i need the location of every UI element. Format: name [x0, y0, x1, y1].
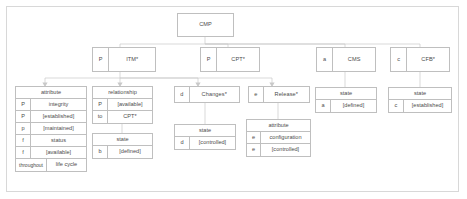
table-cell-key: f [16, 147, 31, 158]
node-cpt[interactable]: P CPT* [200, 47, 260, 72]
table-header-cell: state [389, 88, 451, 99]
node-release-label: Release* [264, 87, 309, 102]
table-cell-key: e [247, 132, 261, 143]
table-cell-key: P [16, 111, 31, 122]
table-itm-state: state b [defined] [92, 133, 153, 159]
table-row: attribute [16, 87, 86, 99]
table-cell-key: d [175, 137, 190, 149]
node-cfb-label: CFB* [407, 48, 449, 71]
table-row: e [controlled] [247, 144, 310, 156]
table-cell-key: throughout [16, 159, 47, 171]
node-cms[interactable]: a CMS [316, 47, 376, 72]
table-row: P [available] [93, 99, 152, 111]
table-header-cell: attribute [247, 120, 310, 131]
table-changes-state: state d [controlled] [174, 124, 236, 150]
table-row: state [175, 125, 235, 137]
table-cell-key: P [93, 99, 108, 110]
table-cms-state: state a [defined] [315, 87, 377, 113]
table-cell-value: [defined] [331, 100, 376, 112]
table-cell-value: [controlled] [190, 137, 235, 149]
table-cell-value: [available] [31, 147, 86, 158]
table-cell-key: f [16, 135, 31, 146]
table-cell-key: e [247, 144, 261, 156]
diagram-canvas: CMP P ITM* P CPT* a CMS c CFB* d Changes… [0, 0, 467, 199]
table-row: state [316, 88, 376, 100]
table-cell-value: [defined] [108, 146, 152, 158]
table-row: f status [16, 135, 86, 147]
table-cell-key: c [389, 100, 404, 112]
node-itm-label: ITM* [109, 48, 155, 71]
table-header-cell: state [316, 88, 376, 99]
table-cell-key: b [93, 146, 108, 158]
node-release-key: e [249, 87, 264, 102]
node-cms-key: a [317, 48, 333, 71]
node-cpt-key: P [201, 48, 217, 71]
table-cell-value: [available] [108, 99, 152, 110]
table-header-cell: state [93, 134, 152, 145]
table-cell-key: to [93, 111, 108, 123]
table-cell-value: CPT* [108, 111, 152, 123]
table-cell-value: [established] [404, 100, 451, 112]
table-cell-key: p [16, 123, 31, 134]
node-cmp-label: CMP [178, 14, 233, 36]
table-row: state [93, 134, 152, 146]
node-changes[interactable]: d Changes* [174, 86, 240, 103]
table-cell-value: [controlled] [261, 144, 310, 156]
table-cell-value: configuration [261, 132, 310, 143]
table-itm-attribute: attribute P integrity P [established] p … [15, 86, 87, 172]
node-cpt-label: CPT* [217, 48, 259, 71]
table-row: c [established] [389, 100, 451, 112]
table-row: relationship [93, 87, 152, 99]
node-cfb-key: c [391, 48, 407, 71]
table-row: throughout life cycle [16, 159, 86, 171]
table-cell-value: integrity [31, 99, 86, 110]
table-cell-value: life cycle [47, 159, 86, 171]
table-row: state [389, 88, 451, 100]
node-changes-key: d [175, 87, 190, 102]
table-row: d [controlled] [175, 137, 235, 149]
table-row: P integrity [16, 99, 86, 111]
table-cell-value: status [31, 135, 86, 146]
node-changes-label: Changes* [190, 87, 239, 102]
table-header-cell: attribute [16, 87, 86, 98]
node-release[interactable]: e Release* [248, 86, 310, 103]
table-cell-key: P [16, 99, 31, 110]
table-row: to CPT* [93, 111, 152, 123]
table-header-cell: relationship [93, 87, 152, 98]
node-cmp[interactable]: CMP [177, 13, 234, 37]
table-header-cell: state [175, 125, 235, 136]
table-cell-value: [maintained] [31, 123, 86, 134]
table-row: p [maintained] [16, 123, 86, 135]
table-row: f [available] [16, 147, 86, 159]
node-cfb[interactable]: c CFB* [390, 47, 450, 72]
table-release-attribute: attribute e configuration e [controlled] [246, 119, 311, 157]
table-row: attribute [247, 120, 310, 132]
table-row: b [defined] [93, 146, 152, 158]
table-itm-relationship: relationship P [available] to CPT* [92, 86, 153, 124]
node-itm-key: P [93, 48, 109, 71]
node-cms-label: CMS [333, 48, 375, 71]
table-cell-value: [established] [31, 111, 86, 122]
table-cfb-state: state c [established] [388, 87, 452, 113]
table-row: e configuration [247, 132, 310, 144]
table-row: a [defined] [316, 100, 376, 112]
table-cell-key: a [316, 100, 331, 112]
node-itm[interactable]: P ITM* [92, 47, 156, 72]
table-row: P [established] [16, 111, 86, 123]
